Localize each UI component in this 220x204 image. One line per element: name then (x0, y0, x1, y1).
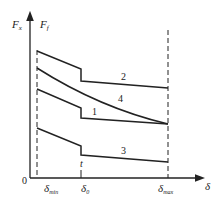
curve-3-label: 3 (121, 145, 126, 156)
x-label: δ (205, 180, 211, 192)
diagram: Fx Ff 0 δ δmin δ0 δmax t 2 4 1 3 (0, 0, 220, 204)
curve-4-label: 4 (118, 93, 123, 104)
curve-2 (37, 51, 168, 88)
delta-max-label: δmax (158, 182, 173, 195)
origin-label: 0 (22, 175, 27, 186)
point-t-label: t (80, 158, 83, 169)
curve-4 (37, 68, 168, 124)
y-label-ff: Ff (39, 18, 50, 32)
delta-min-label: δmin (44, 182, 58, 195)
curve-1-label: 1 (92, 106, 97, 117)
curve-3 (37, 128, 168, 162)
curve-2-label: 2 (121, 71, 126, 82)
delta-0-label: δ0 (81, 182, 89, 195)
y-label-fx: Fx (11, 18, 23, 32)
